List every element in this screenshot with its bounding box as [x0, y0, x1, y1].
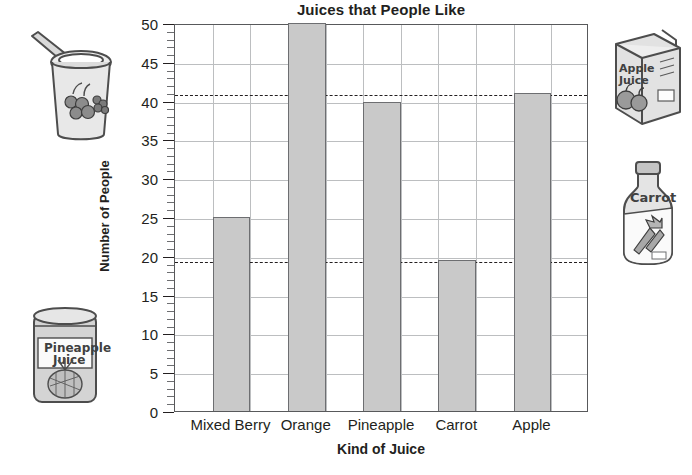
y-tick-minor [167, 327, 174, 328]
bar-series [175, 25, 587, 411]
y-tick-minor [167, 55, 174, 56]
y-tick-minor [167, 164, 174, 165]
y-tick-minor [167, 32, 174, 33]
y-tick-minor [167, 195, 174, 196]
y-tick-minor [167, 148, 174, 149]
y-tick-minor [167, 171, 174, 172]
y-tick-minor [167, 404, 174, 405]
y-tick-minor [167, 234, 174, 235]
bar-orange [288, 23, 326, 411]
y-tick-label: 35 [141, 132, 158, 149]
bar-apple [514, 93, 552, 411]
y-tick-minor [167, 109, 174, 110]
y-tick-minor [167, 342, 174, 343]
y-tick-minor [167, 133, 174, 134]
y-tick-major [163, 24, 174, 25]
y-tick-minor [167, 288, 174, 289]
y-tick-minor [167, 78, 174, 79]
y-tick-label: 45 [141, 54, 158, 71]
carton-label-line2: Juice [618, 74, 649, 87]
chart-title: Juices that People Like [174, 1, 588, 18]
y-tick-minor [167, 210, 174, 211]
y-tick-minor [167, 94, 174, 95]
y-tick-major [163, 257, 174, 258]
y-tick-minor [167, 272, 174, 273]
y-tick-minor [167, 71, 174, 72]
y-tick-label: 30 [141, 171, 158, 188]
y-tick-label: 10 [141, 326, 158, 343]
bottle-label: Carrot [630, 190, 676, 205]
y-tick-minor [167, 303, 174, 304]
y-tick-minor [167, 280, 174, 281]
x-tick-label: Carrot [435, 416, 477, 433]
y-tick-minor [167, 40, 174, 41]
y-tick-label: 50 [141, 16, 158, 33]
y-tick-label: 15 [141, 287, 158, 304]
y-tick-label: 20 [141, 248, 158, 265]
y-tick-label: 0 [150, 404, 158, 421]
y-tick-minor [167, 265, 174, 266]
y-tick-minor [167, 156, 174, 157]
y-tick-major [163, 179, 174, 180]
y-tick-minor [167, 365, 174, 366]
mixed-berry-cup-illustration [24, 22, 128, 148]
y-tick-minor [167, 389, 174, 390]
y-tick-label: 25 [141, 210, 158, 227]
y-tick-minor [167, 86, 174, 87]
y-tick-minor [167, 358, 174, 359]
y-tick-major [163, 63, 174, 64]
y-tick-minor [167, 381, 174, 382]
y-tick-minor [167, 117, 174, 118]
carrot-juice-bottle-illustration: Carrot [610, 156, 688, 268]
plot-area [174, 24, 588, 412]
y-tick-minor [167, 202, 174, 203]
x-tick-label: Mixed Berry [190, 416, 270, 433]
x-tick-label: Orange [281, 416, 331, 433]
apple-juice-carton-illustration: Apple Juice [606, 24, 690, 130]
x-tick-label: Apple [512, 416, 550, 433]
y-tick-minor [167, 311, 174, 312]
y-tick-major [163, 296, 174, 297]
y-tick-major [163, 102, 174, 103]
y-tick-major [163, 373, 174, 374]
bar-carrot [438, 260, 476, 411]
x-axis-title: Kind of Juice [174, 441, 588, 457]
y-tick-major [163, 412, 174, 413]
y-tick-major [163, 140, 174, 141]
bar-pineapple [363, 102, 401, 411]
y-tick-minor [167, 187, 174, 188]
pineapple-juice-can-illustration: Pineapple Juice [20, 300, 112, 412]
y-tick-minor [167, 249, 174, 250]
x-tick-label: Pineapple [348, 416, 415, 433]
y-tick-label: 5 [150, 365, 158, 382]
bar-mixed-berry [213, 217, 251, 411]
y-tick-major [163, 334, 174, 335]
y-tick-minor [167, 241, 174, 242]
y-tick-minor [167, 226, 174, 227]
y-tick-minor [167, 125, 174, 126]
y-tick-minor [167, 396, 174, 397]
y-tick-minor [167, 319, 174, 320]
y-tick-major [163, 218, 174, 219]
y-tick-minor [167, 47, 174, 48]
y-tick-label: 40 [141, 93, 158, 110]
y-tick-minor [167, 350, 174, 351]
chart-page: Juices that People Like Number of People… [0, 0, 692, 475]
